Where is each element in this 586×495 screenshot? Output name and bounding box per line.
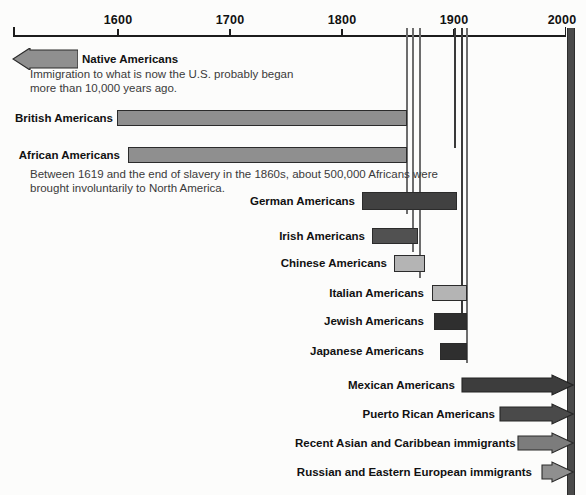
axis-tick-label-1700: 1700 <box>216 13 245 27</box>
axis-tick-label-1600: 1600 <box>104 13 133 27</box>
axis-tick-label-1800: 1800 <box>328 13 357 27</box>
bar-chinese-americans <box>394 255 425 272</box>
guide-line-chinese-start <box>419 28 421 278</box>
row-label-african-americans: African Americans <box>15 149 120 161</box>
row-label-mexican-americans: Mexican Americans <box>340 379 455 391</box>
bar-native-americans <box>12 48 78 70</box>
axis-tick-label-1900: 1900 <box>440 13 469 27</box>
row-label-irish-americans: Irish Americans <box>270 230 365 242</box>
axis-left-endcap <box>13 27 15 36</box>
bar-african-americans <box>128 147 407 163</box>
bar-italian-americans <box>432 285 467 301</box>
bar-russian-eastern-european <box>541 461 574 483</box>
bar-recent-asian-caribbean <box>517 432 574 454</box>
guide-line-irish-start <box>412 28 414 252</box>
row-label-puerto-rican-americans: Puerto Rican Americans <box>345 408 495 420</box>
bar-irish-americans <box>372 228 418 244</box>
row-label-chinese-americans: Chinese Americans <box>275 257 387 269</box>
guide-line-1900-left <box>454 28 456 148</box>
row-label-jewish-americans: Jewish Americans <box>320 315 424 327</box>
note-african-americans: Between 1619 and the end of slavery in t… <box>30 168 438 195</box>
bar-german-americans <box>362 192 457 210</box>
bar-jewish-americans <box>434 313 467 330</box>
row-label-russian-eastern-european: Russian and Eastern European immigrants <box>290 466 532 478</box>
bar-japanese-americans <box>440 343 467 360</box>
bar-mexican-americans <box>461 374 574 396</box>
axis-baseline <box>13 35 566 37</box>
row-label-recent-asian-caribbean: Recent Asian and Caribbean immigrants <box>295 437 513 449</box>
axis-tick-1800 <box>341 29 343 36</box>
axis-tick-1600 <box>117 29 119 36</box>
axis-right-endcap <box>565 27 567 36</box>
row-label-italian-americans: Italian Americans <box>320 287 424 299</box>
bar-british-americans <box>117 110 407 126</box>
axis-tick-label-2000: 2000 <box>548 13 577 27</box>
row-label-native-americans: Native Americans <box>82 53 178 65</box>
note-native-americans: Immigration to what is now the U.S. prob… <box>30 68 293 95</box>
axis-tick-1700 <box>229 29 231 36</box>
timeline-chart: 1600 1700 1800 1900 2000 Native American… <box>0 0 586 495</box>
row-label-japanese-americans: Japanese Americans <box>310 345 424 357</box>
guide-line-italian-start <box>461 28 463 318</box>
row-label-british-americans: British Americans <box>15 112 110 124</box>
bar-puerto-rican-americans <box>499 403 574 425</box>
row-label-german-americans: German Americans <box>240 195 355 207</box>
